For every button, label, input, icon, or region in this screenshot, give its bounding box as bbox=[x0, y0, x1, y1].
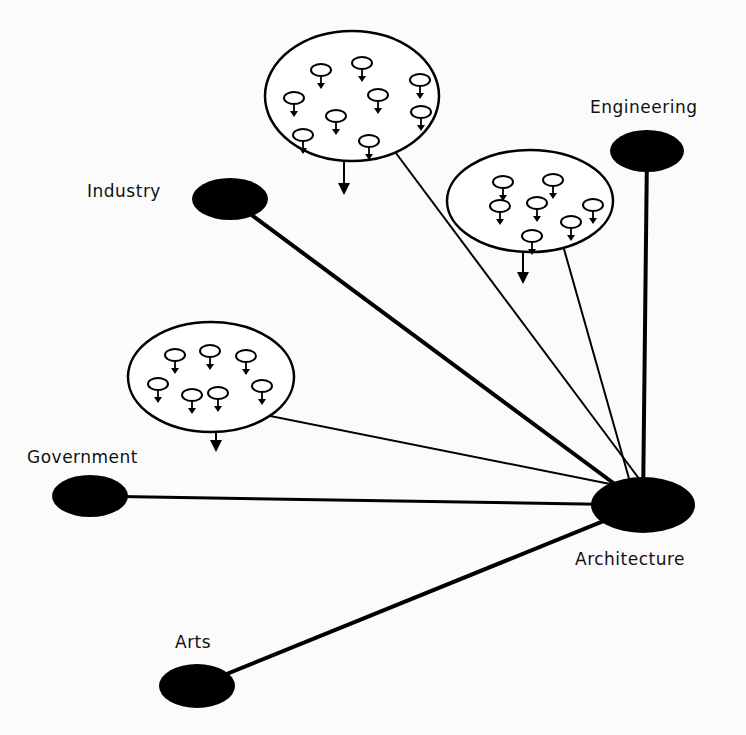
connector-group-right bbox=[559, 232, 630, 482]
node-arts bbox=[159, 664, 235, 708]
label-arts: Arts bbox=[175, 632, 211, 652]
label-government: Government bbox=[27, 447, 138, 467]
connector-engineering bbox=[643, 151, 647, 505]
node-engineering bbox=[610, 130, 684, 172]
group-top bbox=[265, 31, 439, 195]
node-architecture bbox=[591, 477, 695, 533]
connector-industry bbox=[230, 199, 643, 505]
node-industry bbox=[192, 178, 268, 220]
connector-government bbox=[90, 496, 643, 505]
group-circle bbox=[128, 322, 294, 432]
connector-arts bbox=[197, 505, 643, 686]
label-industry: Industry bbox=[87, 181, 161, 201]
network-diagram: EngineeringIndustryGovernmentArtsArchite… bbox=[0, 0, 746, 735]
member-groups bbox=[128, 31, 613, 452]
group-right bbox=[447, 150, 613, 284]
group-left bbox=[128, 322, 294, 452]
label-engineering: Engineering bbox=[590, 97, 698, 117]
label-architecture: Architecture bbox=[575, 549, 685, 569]
node-government bbox=[52, 475, 128, 517]
